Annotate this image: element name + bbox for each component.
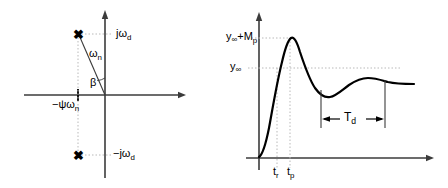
- peak-time-label: tp: [287, 166, 294, 177]
- rise-time-label: tr: [273, 166, 279, 177]
- step-response-curve: [259, 38, 414, 157]
- sigma-label: −ψωn: [52, 99, 79, 110]
- peak-value-label: y∞+Mp: [226, 31, 257, 44]
- pole-plot-svg: [0, 0, 224, 188]
- damped-period-label: Td: [344, 111, 356, 123]
- beta-label: β: [90, 77, 96, 88]
- j-omega-d-label: jωd: [116, 28, 131, 39]
- pole-plot-panel: ✖ ✖ jωd −jωd ωn β −ψωn: [0, 0, 224, 188]
- figure-root: ✖ ✖ jωd −jωd ωn β −ψωn: [0, 0, 448, 188]
- steady-state-label: y∞: [230, 61, 241, 74]
- lower-pole-marker: ✖: [73, 149, 84, 162]
- step-plot-panel: y∞+Mp y∞ tr tp Td: [224, 0, 448, 188]
- upper-pole-marker: ✖: [73, 28, 84, 41]
- omega-n-label: ωn: [89, 48, 102, 59]
- step-plot-svg: [224, 0, 448, 188]
- time-axis: [246, 155, 434, 161]
- neg-j-omega-d-label: −jωd: [113, 148, 135, 159]
